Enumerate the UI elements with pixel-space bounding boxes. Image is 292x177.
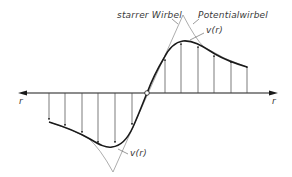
lower-velocity-arrows	[49, 93, 132, 143]
axis-left-arrow-icon	[18, 91, 27, 96]
upper-velocity-arrows	[165, 43, 247, 93]
label-r-right: r	[272, 97, 276, 106]
label-v-r-upper: v(r)	[206, 26, 223, 35]
label-r-left: r	[19, 97, 23, 106]
label-starrer-wirbel: starrer Wirbel	[117, 11, 182, 20]
label-leaders	[118, 19, 204, 154]
origin-point	[145, 91, 150, 96]
vortex-velocity-diagram: starrer Wirbel Potentialwirbel v(r) v(r)…	[0, 0, 292, 177]
label-v-r-lower: v(r)	[130, 149, 147, 158]
axis-right-arrow-icon	[269, 91, 278, 96]
label-potentialwirbel: Potentialwirbel	[198, 11, 268, 20]
